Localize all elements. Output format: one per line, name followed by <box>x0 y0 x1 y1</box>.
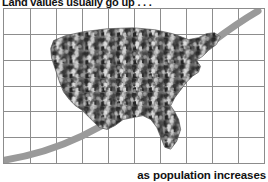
chart-top-caption: Land values usually go up . . . <box>2 0 152 8</box>
figure-panel: Land values usually go up . . . <box>0 0 268 182</box>
us-map-crowd-graphic <box>4 9 264 163</box>
chart-plot-area <box>3 8 265 164</box>
chart-bottom-caption: as population increases <box>137 169 266 181</box>
